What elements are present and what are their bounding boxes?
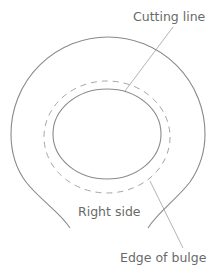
edge-of-bulge-line <box>44 81 170 193</box>
outer-outline <box>11 37 205 228</box>
edge-of-bulge-leader <box>150 181 183 248</box>
edge-of-bulge-label: Edge of bulge <box>120 250 207 265</box>
bulge-diagram: Cutting line Right side Edge of bulge <box>0 0 218 275</box>
cutting-line-leader <box>125 27 173 91</box>
cutting-line <box>53 89 161 179</box>
cutting-line-label: Cutting line <box>133 9 206 24</box>
right-side-label: Right side <box>78 204 141 219</box>
